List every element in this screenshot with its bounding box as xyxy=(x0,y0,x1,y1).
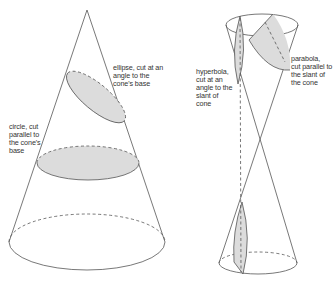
left-cone-base-back xyxy=(9,214,165,242)
ellipse-label: ellipse, cut at an angle to the cone's b… xyxy=(113,64,163,88)
right-double-cone xyxy=(219,14,298,274)
bottom-rim-front xyxy=(219,263,297,274)
circle-label: circle, cut parallel to the cone's base xyxy=(9,123,41,155)
left-cone-right-side xyxy=(87,10,165,242)
left-cone-base-front xyxy=(9,242,165,270)
hyperbola-label: hyperbola, cut at an angle to the slant … xyxy=(196,68,232,108)
bottom-rim-back xyxy=(219,252,297,263)
conic-sections-diagram xyxy=(0,0,333,282)
parabola-label: parabola, cut parallel to the slant of t… xyxy=(291,55,332,87)
parabola-fill xyxy=(249,14,290,70)
